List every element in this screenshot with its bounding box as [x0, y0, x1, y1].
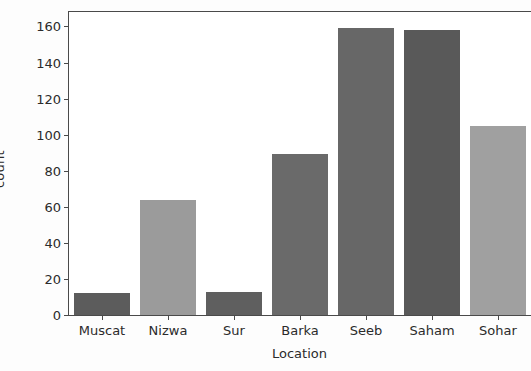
- y-tick-label: 120: [36, 91, 61, 106]
- x-tick-label-saham: Saham: [409, 323, 454, 338]
- x-tick-mark: [168, 315, 169, 320]
- bar-nizwa: [140, 200, 197, 315]
- y-tick-label: 20: [44, 271, 61, 286]
- y-tick-label: 140: [36, 55, 61, 70]
- bar-barka: [272, 154, 329, 315]
- y-tick-mark: [64, 315, 69, 316]
- x-tick-label-barka: Barka: [281, 323, 319, 338]
- x-tick-label-muscat: Muscat: [79, 323, 125, 338]
- bar-chart: count 020406080100120140160 MuscatNizwaS…: [0, 0, 531, 371]
- y-tick-label: 160: [36, 19, 61, 34]
- bar-seeb: [338, 28, 395, 315]
- x-tick-mark: [432, 315, 433, 320]
- y-tick-label: 0: [53, 308, 61, 323]
- x-tick-label-nizwa: Nizwa: [149, 323, 188, 338]
- y-tick-label: 80: [44, 163, 61, 178]
- x-tick-label-sur: Sur: [223, 323, 245, 338]
- bar-sohar: [470, 126, 527, 315]
- plot-area: 020406080100120140160 MuscatNizwaSurBark…: [68, 11, 531, 316]
- y-tick-label: 100: [36, 127, 61, 142]
- x-tick-mark: [300, 315, 301, 320]
- x-tick-mark: [498, 315, 499, 320]
- bar-saham: [404, 30, 461, 315]
- y-tick-label: 60: [44, 199, 61, 214]
- x-axis-label: Location: [68, 346, 531, 361]
- y-axis-label: count: [0, 164, 48, 188]
- bars-group: [69, 12, 531, 315]
- x-tick-mark: [234, 315, 235, 320]
- x-tick-mark: [366, 315, 367, 320]
- x-tick-label-sohar: Sohar: [479, 323, 517, 338]
- x-tick-mark: [102, 315, 103, 320]
- x-tick-label-seeb: Seeb: [350, 323, 383, 338]
- bar-sur: [206, 292, 263, 315]
- y-tick-label: 40: [44, 235, 61, 250]
- bar-muscat: [74, 293, 131, 315]
